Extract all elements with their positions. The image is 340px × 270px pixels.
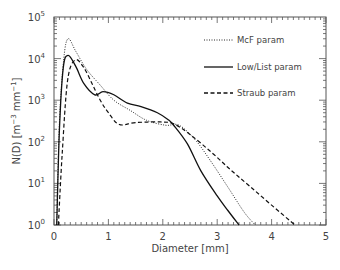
y-tick-label: 103	[28, 93, 45, 106]
x-axis-title: Diameter [mm]	[151, 243, 228, 254]
y-tick-label: 105	[28, 10, 45, 23]
legend-label: McF param	[237, 35, 284, 45]
legend-label: Straub param	[237, 88, 296, 98]
y-axis-title: N(D) [m−3 mm−1]	[10, 77, 22, 164]
y-tick-label: 104	[28, 52, 46, 65]
x-tick-label: 5	[323, 231, 329, 242]
y-tick-labels: 100101102103104105	[28, 10, 46, 231]
y-tick-label: 102	[28, 135, 45, 148]
x-tick-label: 2	[160, 231, 166, 242]
axis-ticks	[54, 17, 326, 225]
x-tick-label: 1	[105, 231, 111, 242]
x-tick-labels: 012345	[51, 231, 329, 242]
series-low-list-param	[57, 55, 239, 225]
y-tick-label: 101	[28, 176, 45, 189]
x-tick-label: 0	[51, 231, 57, 242]
series-straub-param	[58, 59, 295, 225]
legend: McF paramLow/List paramStraub param	[204, 35, 302, 98]
x-tick-label: 3	[214, 231, 220, 242]
x-tick-label: 4	[268, 231, 274, 242]
legend-label: Low/List param	[237, 62, 302, 72]
chart-figure: 012345 100101102103104105 McF paramLow/L…	[0, 0, 340, 270]
y-tick-label: 100	[28, 218, 45, 231]
plot-frame	[54, 17, 326, 225]
